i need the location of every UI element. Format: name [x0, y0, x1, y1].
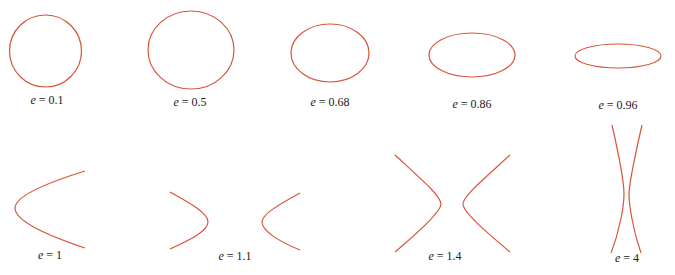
parabola-e-1 — [15, 171, 85, 248]
variable-e: e — [615, 251, 620, 265]
eccentricity-value: = 0.1 — [39, 93, 64, 107]
eccentricity-value: = 0.86 — [461, 97, 492, 111]
hyperbola-e-1.1-left — [170, 192, 208, 249]
variable-e: e — [428, 249, 433, 263]
variable-e: e — [452, 97, 457, 111]
variable-e: e — [598, 98, 603, 112]
label-e-0.68: e = 0.68 — [310, 95, 349, 110]
variable-e: e — [38, 248, 43, 262]
label-e-1.4: e = 1.4 — [428, 249, 461, 264]
variable-e: e — [218, 249, 223, 263]
eccentricity-value: = 0.5 — [182, 95, 207, 109]
ellipse-e-0.68 — [291, 24, 369, 82]
eccentricity-value: = 1.1 — [227, 249, 252, 263]
ellipse-e-0.86 — [429, 33, 515, 77]
ellipse-e-0.96 — [575, 44, 661, 68]
variable-e: e — [30, 93, 35, 107]
label-e-1: e = 1 — [38, 248, 62, 263]
label-e-0.96: e = 0.96 — [598, 98, 637, 113]
hyperbola-e-1.4-right — [463, 155, 510, 252]
eccentricity-value: = 1.4 — [437, 249, 462, 263]
hyperbola-e-4-right — [629, 125, 642, 253]
label-e-1.1: e = 1.1 — [218, 249, 251, 264]
eccentricity-value: = 4 — [623, 251, 639, 265]
label-e-0.5: e = 0.5 — [173, 95, 206, 110]
hyperbola-e-4-left — [611, 125, 624, 253]
ellipse-e-0.1 — [10, 15, 82, 87]
ellipse-e-0.5 — [148, 11, 234, 89]
conics-canvas — [0, 0, 675, 275]
label-e-0.1: e = 0.1 — [30, 93, 63, 108]
eccentricity-value: = 0.96 — [607, 98, 638, 112]
label-e-0.86: e = 0.86 — [452, 97, 491, 112]
eccentricity-value: = 0.68 — [319, 95, 350, 109]
variable-e: e — [310, 95, 315, 109]
hyperbola-e-1.1-right — [262, 193, 300, 250]
label-e-4: e = 4 — [615, 251, 639, 266]
eccentricity-value: = 1 — [46, 248, 62, 262]
hyperbola-e-1.4-left — [395, 155, 441, 252]
variable-e: e — [173, 95, 178, 109]
